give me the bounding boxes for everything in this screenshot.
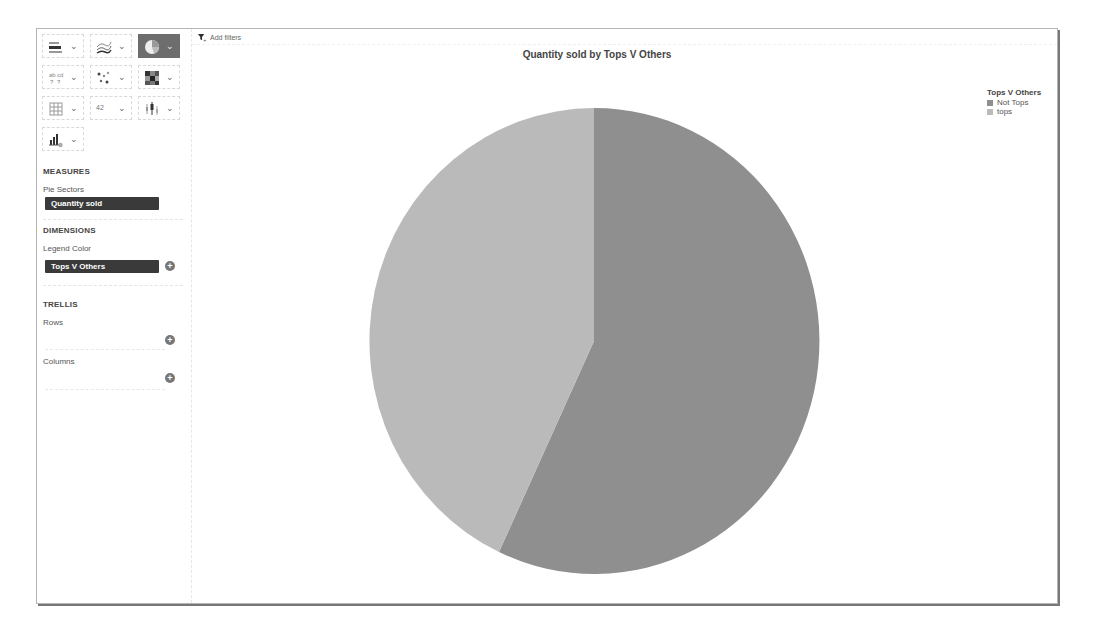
- divider: [192, 44, 1057, 45]
- viz-scatter-button[interactable]: ⌄: [90, 65, 132, 89]
- legend-swatch: [987, 109, 993, 115]
- viz-line-button[interactable]: ⌄: [90, 34, 132, 58]
- chevron-down-icon: ⌄: [70, 103, 78, 113]
- rows-label: Rows: [43, 318, 63, 327]
- chevron-down-icon: ⌄: [118, 72, 126, 82]
- legend-label: tops: [997, 107, 1012, 116]
- heatmap-icon: [144, 70, 160, 86]
- svg-text:cd: cd: [57, 72, 63, 78]
- table-bars-icon: [48, 39, 64, 55]
- svg-text:?: ?: [57, 79, 61, 85]
- pie-sectors-measure-pill[interactable]: Quantity sold: [45, 197, 159, 210]
- viz-boxplot-button[interactable]: ⌄: [138, 96, 180, 120]
- legend-label: Not Tops: [997, 98, 1028, 107]
- bar-gear-icon: [48, 132, 64, 148]
- dimensions-heading: DIMENSIONS: [43, 226, 96, 235]
- chevron-down-icon: ⌄: [70, 134, 78, 144]
- app-frame: ⌄ ⌄ ⌄ abcd?? ⌄ ⌄ ⌄: [36, 28, 1058, 604]
- columns-label: Columns: [43, 357, 75, 366]
- chevron-down-icon: ⌄: [70, 41, 78, 51]
- chevron-down-icon: ⌄: [118, 103, 126, 113]
- chevron-down-icon: ⌄: [166, 103, 174, 113]
- legend-color-label: Legend Color: [43, 244, 91, 253]
- line-chart-icon: [96, 39, 112, 55]
- legend-item-tops[interactable]: tops: [987, 107, 1041, 116]
- chevron-down-icon: ⌄: [70, 72, 78, 82]
- svg-text:?: ?: [50, 79, 54, 85]
- divider: [43, 285, 183, 286]
- chart-title: Quantity sold by Tops V Others: [417, 49, 777, 60]
- trellis-heading: TRELLIS: [43, 300, 78, 309]
- viz-pie-button[interactable]: ⌄: [138, 34, 180, 58]
- viz-kpi-button[interactable]: 42 ⌄: [90, 96, 132, 120]
- sidebar: ⌄ ⌄ ⌄ abcd?? ⌄ ⌄ ⌄: [37, 29, 192, 603]
- svg-text:+: +: [203, 38, 206, 42]
- chart-legend: Tops V Others Not Tops tops: [987, 88, 1041, 116]
- tag-cloud-icon: abcd??: [48, 70, 64, 86]
- scatter-icon: [96, 70, 112, 86]
- pie-sectors-label: Pie Sectors: [43, 185, 84, 194]
- chevron-down-icon: ⌄: [166, 41, 174, 51]
- columns-drop-zone[interactable]: [45, 389, 165, 390]
- add-rows-button[interactable]: +: [165, 335, 175, 345]
- divider: [43, 219, 183, 220]
- add-filters-label: Add filters: [210, 34, 241, 41]
- rows-drop-zone[interactable]: [45, 349, 165, 350]
- viz-table-button[interactable]: ⌄: [42, 34, 84, 58]
- viz-pivot-button[interactable]: ⌄: [42, 96, 84, 120]
- chevron-down-icon: ⌄: [166, 72, 174, 82]
- svg-text:ab: ab: [49, 72, 56, 78]
- pie-chart: [368, 108, 822, 578]
- grid-icon: [48, 101, 64, 117]
- add-filters-button[interactable]: + Add filters: [198, 33, 241, 42]
- boxplot-icon: [144, 101, 160, 117]
- kpi-icon: 42: [96, 104, 112, 120]
- pie-chart-icon: [144, 39, 160, 55]
- viz-custom-button[interactable]: ⌄: [42, 127, 84, 151]
- viz-tagcloud-button[interactable]: abcd?? ⌄: [42, 65, 84, 89]
- chevron-down-icon: ⌄: [118, 41, 126, 51]
- legend-title: Tops V Others: [987, 88, 1041, 97]
- measures-heading: MEASURES: [43, 167, 90, 176]
- legend-swatch: [987, 100, 993, 106]
- add-columns-button[interactable]: +: [165, 373, 175, 383]
- add-legend-color-button[interactable]: +: [165, 261, 175, 271]
- legend-color-dimension-pill[interactable]: Tops V Others: [45, 260, 159, 273]
- viz-heatmap-button[interactable]: ⌄: [138, 65, 180, 89]
- filter-add-icon: +: [198, 33, 207, 42]
- legend-item-not-tops[interactable]: Not Tops: [987, 98, 1041, 107]
